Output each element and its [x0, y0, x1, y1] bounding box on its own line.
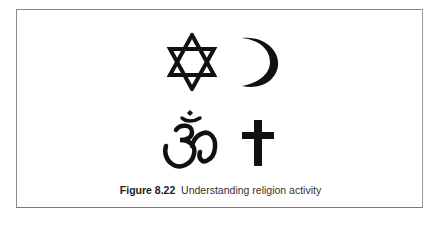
star-of-david-icon — [166, 33, 218, 91]
cross-icon — [240, 118, 276, 168]
caption-label: Figure 8.22 — [120, 184, 175, 196]
om-icon — [162, 108, 224, 172]
crescent-moon-icon — [238, 36, 282, 90]
caption-text: Understanding religion activity — [181, 184, 321, 196]
figure-caption: Figure 8.22 Understanding religion activ… — [0, 184, 441, 196]
